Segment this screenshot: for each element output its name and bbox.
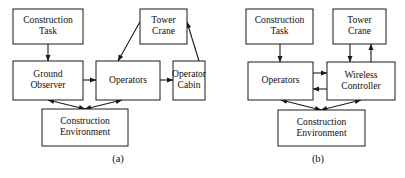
node-a-construction-task[interactable]: ConstructionTask — [13, 9, 83, 44]
node-a-tower-crane[interactable]: TowerCrane — [140, 9, 187, 44]
node-label-a-ground-observer-line2: Observer — [30, 79, 66, 90]
edge-a-environment-observer — [48, 100, 85, 109]
node-a-operator-cabin[interactable]: OperatorCabin — [172, 61, 207, 100]
node-label-b-construction-environment-line2: Environment — [296, 127, 346, 138]
node-label-b-wireless-controller-line2: Controller — [341, 80, 381, 91]
node-label-b-construction-task-line1: Construction — [255, 14, 305, 25]
node-b-construction-environment[interactable]: ConstructionEnvironment — [278, 110, 365, 146]
panel-caption-a: (a) — [112, 153, 124, 165]
node-label-a-operator-cabin-line2: Cabin — [178, 79, 201, 90]
node-b-construction-task[interactable]: ConstructionTask — [246, 9, 313, 44]
node-label-a-construction-environment-line1: Construction — [60, 115, 110, 126]
node-label-a-tower-crane-line1: Tower — [151, 14, 176, 25]
node-label-a-tower-crane-line2: Crane — [152, 25, 175, 36]
edge-a-cabin-to-crane — [187, 22, 199, 61]
edge-b-environment-operators — [281, 100, 321, 110]
node-label-a-ground-observer-line1: Ground — [33, 68, 63, 79]
node-label-b-operators-line1: Operators — [262, 74, 300, 85]
node-a-ground-observer[interactable]: GroundObserver — [13, 61, 83, 100]
node-label-a-construction-task-line2: Task — [39, 25, 57, 36]
node-a-operators[interactable]: Operators — [96, 61, 160, 100]
node-label-a-operators-line1: Operators — [109, 74, 147, 85]
panel-caption-b: (b) — [312, 153, 325, 165]
figure-container: ConstructionTaskTowerCraneGroundObserver… — [0, 0, 405, 178]
node-label-b-wireless-controller-line1: Wireless — [344, 69, 377, 80]
edge-b-environment-controller — [321, 100, 361, 110]
panel-captions-layer: (a)(b) — [112, 153, 324, 165]
node-label-a-construction-environment-line2: Environment — [60, 126, 110, 137]
node-label-b-construction-environment-line1: Construction — [297, 116, 347, 127]
edge-a-environment-operators — [85, 100, 122, 109]
node-b-tower-crane[interactable]: TowerCrane — [333, 9, 386, 44]
nodes-layer: ConstructionTaskTowerCraneGroundObserver… — [13, 9, 395, 146]
node-label-b-construction-task-line2: Task — [271, 25, 289, 36]
node-label-b-tower-crane-line2: Crane — [348, 25, 371, 36]
edge-a-crane-to-operators — [118, 20, 141, 61]
node-a-construction-environment[interactable]: ConstructionEnvironment — [42, 109, 128, 146]
node-b-wireless-controller[interactable]: WirelessController — [327, 62, 395, 100]
node-label-b-tower-crane-line1: Tower — [347, 14, 372, 25]
node-b-operators[interactable]: Operators — [248, 62, 313, 100]
node-label-a-operator-cabin-line1: Operator — [172, 68, 207, 79]
system-architecture-diagram: ConstructionTaskTowerCraneGroundObserver… — [0, 0, 405, 178]
node-label-a-construction-task-line1: Construction — [23, 14, 73, 25]
